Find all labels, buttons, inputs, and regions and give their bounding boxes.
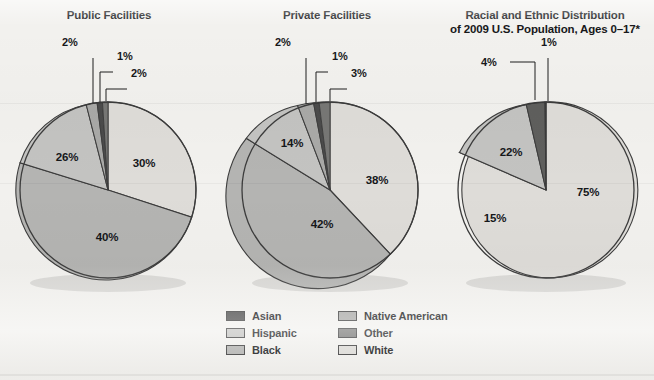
leader-line-asian: [510, 62, 535, 100]
legend-swatch-asian: [226, 311, 245, 321]
callout-label-asian: 1%: [117, 50, 133, 62]
callout-label-native-american: 2%: [131, 67, 147, 79]
legend-label-other: Other: [364, 328, 393, 339]
pie-chart-private-facilities: [218, 0, 436, 300]
slice-label-white: 30%: [133, 157, 155, 169]
slice-label-hispanic: 14%: [281, 137, 303, 149]
leader-line-native-american: [106, 89, 127, 101]
legend-column-right: Native American Other White: [338, 308, 446, 359]
slice-label-white: 38%: [366, 174, 388, 186]
callout-label-native-american: 3%: [351, 67, 367, 79]
legend-swatch-native-american: [338, 311, 357, 321]
chart-panel-public-facilities: Public Facilities 2% 1% 2% 30%: [0, 0, 218, 300]
slice-label-black: 15%: [484, 212, 506, 224]
legend-column-left: Asian Hispanic Black: [226, 308, 334, 359]
legend-item-hispanic: Hispanic: [226, 325, 334, 341]
legend-label-native-american: Native American: [364, 311, 448, 322]
legend-label-black: Black: [252, 345, 281, 356]
pie-chart-public-facilities: [0, 0, 218, 300]
legend-swatch-black: [226, 345, 245, 355]
legend-label-white: White: [364, 345, 393, 356]
chart-panel-private-facilities: Private Facilities 2% 1% 3% 38% 42% 14: [218, 0, 436, 300]
slice-label-black: 40%: [96, 231, 118, 243]
callout-label-hispanic-small: 2%: [62, 36, 78, 48]
legend-item-black: Black: [226, 342, 334, 358]
callout-label-asian: 4%: [481, 56, 497, 68]
callout-label-other: 1%: [541, 36, 557, 48]
legend-item-white: White: [338, 342, 446, 358]
chart-legend: Asian Hispanic Black Native American Oth…: [226, 308, 442, 360]
pie-stage-public: 2% 1% 2% 30% 40% 26%: [0, 0, 218, 300]
legend-item-native-american: Native American: [338, 308, 446, 324]
leader-line-asian: [316, 72, 328, 102]
pie-stage-national: 4% 1% 75% 15% 22%: [436, 0, 654, 300]
slice-label-hispanic: 22%: [500, 146, 522, 158]
legend-label-hispanic: Hispanic: [252, 328, 297, 339]
legend-item-other: Other: [338, 325, 446, 341]
chart-panel-national-population: Racial and Ethnic Distribution of 2009 U…: [436, 0, 654, 300]
legend-item-asian: Asian: [226, 308, 334, 324]
legend-label-asian: Asian: [252, 311, 281, 322]
leader-line-native-american: [330, 89, 347, 101]
slice-label-hispanic: 26%: [56, 151, 78, 163]
legend-swatch-hispanic: [226, 328, 245, 338]
slice-label-black: 42%: [311, 218, 333, 230]
slice-label-white: 75%: [577, 186, 599, 198]
pie-stage-private: 2% 1% 3% 38% 42% 14%: [218, 0, 436, 300]
legend-swatch-other: [338, 328, 357, 338]
callout-label-hispanic-small: 2%: [275, 36, 291, 48]
legend-swatch-white: [338, 345, 357, 355]
callout-label-asian: 1%: [332, 50, 348, 62]
scan-artifact-line-bottom: [0, 374, 654, 376]
